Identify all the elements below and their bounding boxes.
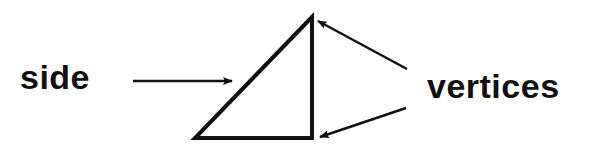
vertex-arrow-bottom [320,108,406,137]
side-label: side [20,60,90,94]
vertices-label: vertices [427,69,560,103]
vertex-arrow-top [318,21,407,69]
triangle-shape [195,17,312,138]
